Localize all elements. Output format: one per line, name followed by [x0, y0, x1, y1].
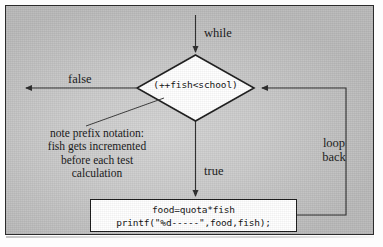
- note-line-4: calculation: [18, 167, 176, 180]
- note-line-3: before each test: [18, 154, 176, 167]
- loop-back-label-line-1: loop: [323, 136, 345, 150]
- flowchart-figure: (++fish<school) food=quota*fish printf("…: [0, 0, 383, 247]
- process-code-line-2: printf("%d-----",food,fish);: [116, 216, 271, 229]
- process-box: food=quota*fish printf("%d-----",food,fi…: [90, 199, 297, 232]
- frame-under-shadow: [6, 236, 374, 238]
- condition-diamond: (++fish<school): [137, 55, 254, 121]
- process-code-line-1: food=quota*fish: [152, 203, 235, 216]
- illustration-frame: (++fish<school) food=quota*fish printf("…: [5, 5, 374, 235]
- loop-back-label: loop back: [317, 136, 351, 164]
- prefix-notation-note: note prefix notation: fish gets incremen…: [18, 127, 176, 181]
- note-line-2: fish gets incremented: [18, 140, 176, 153]
- true-branch-label: true: [204, 164, 223, 179]
- false-branch-label: false: [68, 72, 92, 87]
- note-line-1: note prefix notation:: [18, 127, 176, 140]
- entry-label-while: while: [204, 26, 232, 41]
- loop-back-label-line-2: back: [322, 150, 346, 164]
- condition-expression: (++fish<school): [137, 79, 254, 90]
